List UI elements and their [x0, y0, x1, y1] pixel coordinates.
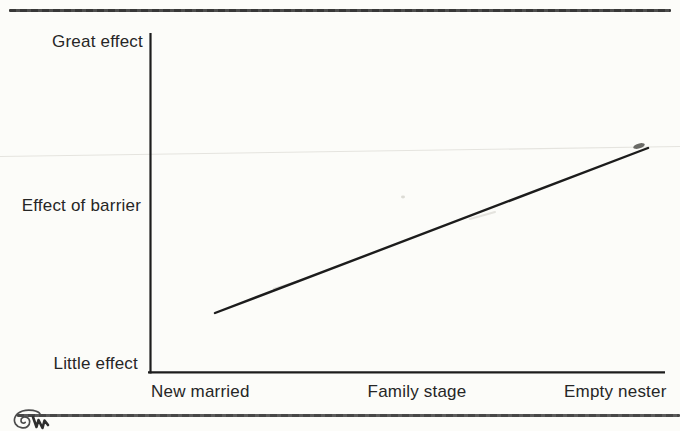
figure-page: Great effect Effect of barrier Little ef…	[0, 0, 680, 431]
x-axis-label-new-married: New married	[151, 382, 250, 402]
paper-speck	[401, 196, 405, 199]
y-axis-title-effect-of-barrier: Effect of barrier	[0, 196, 141, 216]
bottom-rule	[17, 414, 680, 417]
y-axis-label-little-effect: Little effect	[0, 354, 138, 374]
partial-spiral-logo-icon	[9, 408, 51, 431]
x-axis-title-family-stage: Family stage	[337, 382, 497, 402]
barrier-effect-trend-line	[215, 148, 648, 313]
y-axis-label-great-effect: Great effect	[0, 32, 143, 52]
scan-artifact-line	[0, 147, 680, 157]
x-axis-label-empty-nester: Empty nester	[564, 382, 665, 402]
